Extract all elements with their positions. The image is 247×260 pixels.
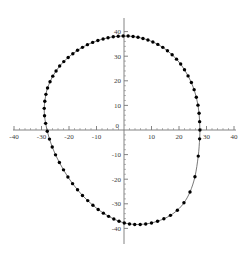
data-point [101,37,104,40]
data-point [71,182,74,185]
data-point [46,86,49,89]
y-tick-label: 30 [114,53,122,61]
data-point [51,74,54,77]
y-axis-tick-labels: -40-30-20-1010203040 [112,28,122,233]
data-point [86,43,89,46]
y-tick-label: -10 [112,151,122,159]
data-point [161,46,164,49]
data-point [117,35,120,38]
data-point [44,93,47,96]
data-point [186,74,189,77]
data-point [121,34,124,37]
data-point [123,221,126,224]
data-point [106,36,109,39]
data-point [91,204,94,207]
y-tick-label: 20 [114,77,122,85]
data-point [96,39,99,42]
data-point [44,122,47,125]
data-point [71,52,74,55]
data-point [62,60,65,63]
data-point [96,208,99,211]
y-tick-label: -20 [112,176,122,184]
data-point [91,41,94,44]
data-point [195,96,198,99]
data-point [81,194,84,197]
data-point [58,161,61,164]
x-tick-label: 40 [231,133,239,141]
data-point [107,215,110,218]
data-point [156,220,159,223]
data-point [183,68,186,71]
x-tick-label: -40 [9,133,19,141]
data-point [112,35,115,38]
y-tick-label: -30 [112,200,122,208]
x-tick-label: 0 [116,122,120,130]
data-point [198,120,201,123]
data-point [146,38,149,41]
data-point [196,103,199,106]
x-tick-label: 30 [203,133,211,141]
data-point [112,217,115,220]
data-point [166,49,169,52]
data-point [43,107,46,110]
data-point [48,80,51,83]
data-point [51,145,54,148]
data-point [198,137,201,140]
data-point [197,112,200,115]
data-point [150,221,153,224]
data-point [48,137,51,140]
data-point [151,40,154,43]
plot-canvas: -40-30-20-10010203040 -40-30-20-10102030… [0,0,247,260]
data-point [54,69,57,72]
x-tick-label: -20 [64,133,74,141]
data-point [179,62,182,65]
x-tick-label: -10 [92,133,102,141]
data-point [156,43,159,46]
data-point [86,199,89,202]
parametric-curve-plot: -40-30-20-10010203040 -40-30-20-10102030… [0,0,247,260]
data-point [46,130,49,133]
x-tick-label: -30 [37,133,47,141]
data-point [197,154,200,157]
data-point [66,56,69,59]
data-point [128,222,131,225]
data-point [188,190,191,193]
data-point [198,128,201,131]
data-point [136,36,139,39]
data-point [117,220,120,223]
data-point [176,209,179,212]
data-point [170,53,173,56]
data-point [126,34,129,37]
data-point [102,211,105,214]
data-point [43,114,46,117]
y-tick-label: -40 [112,225,122,233]
data-point [190,81,193,84]
data-point [66,175,69,178]
y-tick-label: 10 [114,102,122,110]
data-point [62,168,65,171]
data-point [81,46,84,49]
data-point [193,175,196,178]
data-point [162,217,165,220]
data-point [182,201,185,204]
data-point [43,100,46,103]
data-point [131,35,134,38]
data-point [141,37,144,40]
x-tick-label: 10 [148,133,156,141]
data-point [58,64,61,67]
data-point [192,88,195,91]
x-tick-label: 20 [176,133,184,141]
data-point [139,223,142,226]
data-point [144,222,147,225]
data-point [169,214,172,217]
data-point [175,57,178,60]
data-point [133,223,136,226]
data-point [54,153,57,156]
data-point [76,188,79,191]
data-point [76,49,79,52]
